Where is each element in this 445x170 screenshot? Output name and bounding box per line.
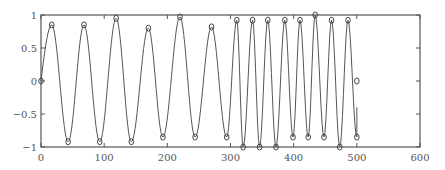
- x-axis: 0100200300400500600: [38, 15, 430, 163]
- y-tick-label: 1: [31, 10, 37, 21]
- x-tick-label: 500: [347, 152, 366, 163]
- open-circle-marker: [355, 78, 360, 84]
- x-tick-label: 600: [410, 152, 429, 163]
- y-tick-label: 0.5: [21, 43, 37, 54]
- x-tick-label: 200: [158, 152, 177, 163]
- line-chart: 0100200300400500600 10.50−0.5−1: [0, 0, 445, 170]
- x-tick-label: 0: [38, 152, 44, 163]
- y-tick-label: 0: [31, 76, 37, 87]
- x-tick-label: 100: [95, 152, 114, 163]
- signal-line: [41, 15, 357, 147]
- y-tick-label: −0.5: [13, 109, 37, 120]
- y-tick-label: −1: [22, 142, 37, 153]
- plot-frame: [41, 15, 420, 147]
- x-tick-label: 400: [284, 152, 303, 163]
- x-tick-label: 300: [221, 152, 240, 163]
